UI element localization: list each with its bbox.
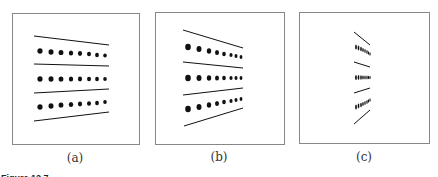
panel-c: (c) — [300, 13, 430, 165]
panel-c-label: (c) — [356, 150, 372, 164]
panel-a-label: (a) — [67, 151, 84, 165]
panel-a-frame — [13, 14, 140, 145]
panel-b: (b) — [156, 13, 285, 165]
figure-canvas: (a) (b) (c) Fi — [0, 0, 438, 177]
panel-a: (a) — [13, 14, 140, 166]
figure-caption: Figure 12.7 — [1, 173, 49, 177]
panel-b-frame — [156, 13, 285, 145]
panel-b-label: (b) — [210, 150, 227, 164]
